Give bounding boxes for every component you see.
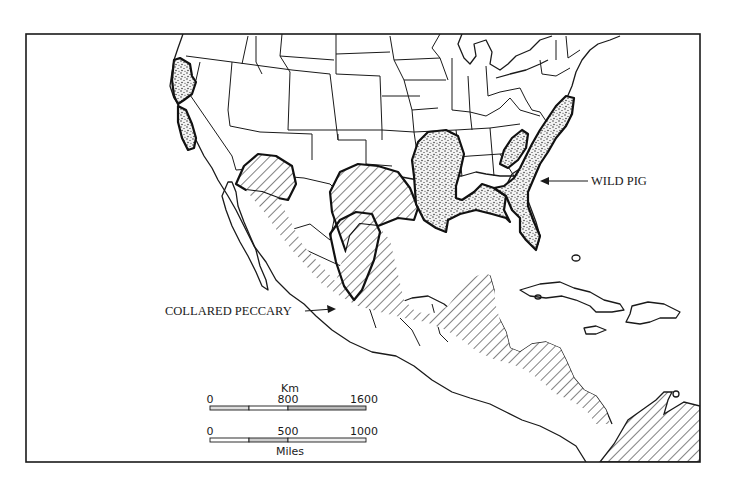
peccary-mexico-central-america (246, 190, 610, 424)
state-borders (186, 34, 580, 186)
scale-km-tick-1: 800 (278, 393, 299, 406)
jamaica (584, 326, 606, 334)
scale-mi-tick-1: 500 (278, 425, 299, 438)
scale-mi-bar-seg2 (249, 438, 288, 442)
peccary-arrow-head (327, 305, 336, 313)
scale-mi-tick-2: 1000 (350, 425, 378, 438)
scale-km-bar-seg3 (288, 406, 366, 410)
collared-peccary-label: COLLARED PECCARY (165, 304, 292, 318)
hispaniola (626, 302, 680, 324)
scale-mi-unit: Miles (276, 445, 304, 458)
scale-mi-bar-seg3 (288, 438, 366, 442)
scale-bar: Km 0 800 1600 0 500 1000 Miles (207, 382, 379, 458)
wild-pig-label: WILD PIG (591, 174, 647, 188)
peccary-arizona-newmexico (236, 154, 296, 200)
scale-km-tick-0: 0 (207, 393, 214, 406)
scale-mi-bar-seg1 (210, 438, 249, 442)
scale-km-bar-seg2 (249, 406, 288, 410)
scale-km-bar-seg1 (210, 406, 249, 410)
range-map: WILD PIG COLLARED PECCARY Km 0 800 1600 … (0, 0, 742, 490)
bahamas-island (572, 255, 580, 261)
aruba-island (673, 391, 679, 397)
great-lakes (458, 34, 552, 78)
wild-pig-label-group: WILD PIG (540, 174, 647, 188)
collared-peccary-label-group: COLLARED PECCARY (165, 304, 336, 318)
wild-pig-arrow-head (540, 177, 549, 185)
map-content (170, 34, 700, 462)
wild-pig-california-north (172, 58, 196, 104)
wild-pig-florida-atlantic (494, 96, 574, 250)
peccary-south-america (600, 392, 700, 462)
scale-mi-tick-0: 0 (207, 425, 214, 438)
wild-pig-california-south (178, 106, 196, 150)
wild-pig-louisiana-mississippi (412, 130, 510, 232)
scale-km-tick-2: 1600 (350, 393, 378, 406)
